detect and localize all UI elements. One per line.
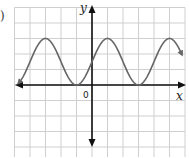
x-axis	[15, 82, 186, 89]
y-axis-label: y	[79, 1, 87, 15]
origin-label: 0	[83, 90, 89, 100]
arrow-down-icon	[89, 139, 96, 147]
x-axis-label: x	[176, 89, 183, 103]
sine-curve	[18, 39, 182, 86]
grid	[15, 8, 186, 158]
arrow-up-icon	[89, 5, 96, 13]
sine-graph: y x 0	[0, 0, 189, 157]
y-axis	[89, 5, 96, 147]
